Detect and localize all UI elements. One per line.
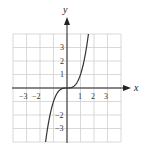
y-tick-label: 3	[60, 43, 64, 52]
x-axis-label: x	[133, 82, 139, 93]
y-axis-arrow-icon	[64, 17, 70, 25]
x-tick-label: 1	[78, 92, 82, 101]
x-tick-label: 2	[91, 92, 95, 101]
cubic-function-graph: x y −3 −2 1 2 3 3 2 1 −2 −3	[0, 0, 143, 147]
y-tick-label: 1	[60, 70, 64, 79]
y-axis-label: y	[62, 4, 68, 15]
y-tick-label: 2	[60, 57, 64, 66]
x-axis-arrow-icon	[123, 85, 131, 91]
x-tick-label: −2	[32, 92, 41, 101]
x-tick-label: −3	[19, 92, 28, 101]
y-tick-label: −2	[55, 111, 64, 120]
x-tick-label: 3	[104, 92, 108, 101]
y-tick-label: −3	[55, 124, 64, 133]
